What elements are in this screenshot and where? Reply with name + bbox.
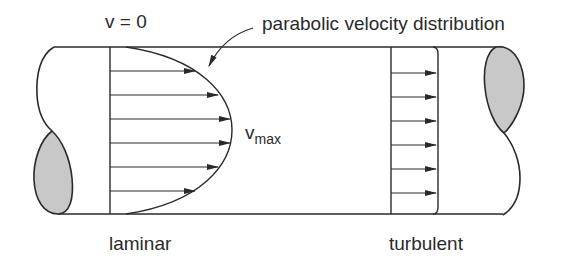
pipe-right-cross-section (484, 47, 524, 133)
pipe-left-cut-curve (37, 47, 54, 131)
laminar-parabolic-curve (126, 47, 232, 214)
vmax-symbol: v (245, 122, 255, 143)
wall-velocity-label: v = 0 (105, 12, 147, 31)
vmax-label: vmax (245, 123, 281, 142)
turbulent-label: turbulent (389, 234, 463, 253)
vmax-subscript: max (255, 131, 281, 147)
laminar-velocity-arrows (110, 71, 230, 191)
pipe-right-cut-curve (503, 133, 520, 215)
turbulent-velocity-arrows (391, 73, 436, 193)
pipe-left-cross-section (34, 131, 73, 214)
pipe-flow-diagram (0, 0, 572, 260)
profile-callout-label: parabolic velocity distribution (262, 14, 505, 33)
laminar-label: laminar (109, 234, 171, 253)
turbulent-flat-profile (433, 47, 438, 214)
